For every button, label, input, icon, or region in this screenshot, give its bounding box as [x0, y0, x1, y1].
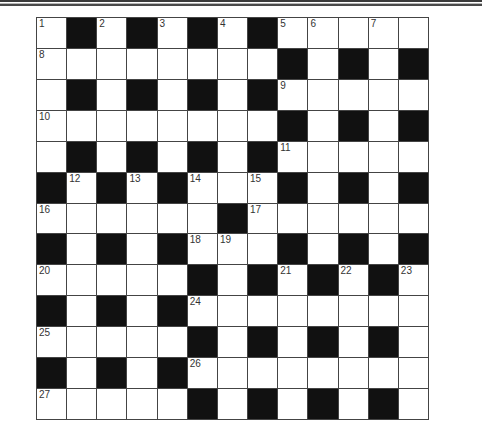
- answer-square[interactable]: [369, 80, 398, 110]
- answer-square[interactable]: [308, 80, 337, 110]
- answer-square[interactable]: [67, 358, 96, 388]
- answer-square[interactable]: 19: [218, 234, 247, 264]
- answer-square[interactable]: [278, 358, 307, 388]
- answer-square[interactable]: [127, 234, 156, 264]
- answer-square[interactable]: [97, 80, 126, 110]
- answer-square[interactable]: [67, 111, 96, 141]
- answer-square[interactable]: [158, 80, 187, 110]
- answer-square[interactable]: [67, 204, 96, 234]
- answer-square[interactable]: [369, 204, 398, 234]
- answer-square[interactable]: [127, 49, 156, 79]
- answer-square[interactable]: [158, 204, 187, 234]
- answer-square[interactable]: [248, 111, 277, 141]
- answer-square[interactable]: [37, 80, 66, 110]
- answer-square[interactable]: [369, 358, 398, 388]
- answer-square[interactable]: 1: [37, 18, 66, 48]
- answer-square[interactable]: [127, 111, 156, 141]
- answer-square[interactable]: [158, 111, 187, 141]
- answer-square[interactable]: 10: [37, 111, 66, 141]
- answer-square[interactable]: [127, 265, 156, 295]
- answer-square[interactable]: 21: [278, 265, 307, 295]
- answer-square[interactable]: [67, 389, 96, 419]
- answer-square[interactable]: [339, 327, 368, 357]
- answer-square[interactable]: [127, 389, 156, 419]
- answer-square[interactable]: [158, 389, 187, 419]
- answer-square[interactable]: [339, 358, 368, 388]
- answer-square[interactable]: [399, 327, 428, 357]
- answer-square[interactable]: [188, 111, 217, 141]
- answer-square[interactable]: 9: [278, 80, 307, 110]
- answer-square[interactable]: [369, 142, 398, 172]
- answer-square[interactable]: 14: [188, 173, 217, 203]
- answer-square[interactable]: [158, 49, 187, 79]
- answer-square[interactable]: 18: [188, 234, 217, 264]
- answer-square[interactable]: [37, 142, 66, 172]
- answer-square[interactable]: [218, 358, 247, 388]
- answer-square[interactable]: 17: [248, 204, 277, 234]
- answer-square[interactable]: [399, 389, 428, 419]
- answer-square[interactable]: [97, 111, 126, 141]
- answer-square[interactable]: [339, 389, 368, 419]
- answer-square[interactable]: [278, 296, 307, 326]
- answer-square[interactable]: 25: [37, 327, 66, 357]
- answer-square[interactable]: [218, 265, 247, 295]
- answer-square[interactable]: [248, 296, 277, 326]
- answer-square[interactable]: [308, 111, 337, 141]
- answer-square[interactable]: [67, 265, 96, 295]
- answer-square[interactable]: [308, 234, 337, 264]
- answer-square[interactable]: [158, 142, 187, 172]
- answer-square[interactable]: [339, 80, 368, 110]
- answer-square[interactable]: 6: [308, 18, 337, 48]
- answer-square[interactable]: [158, 265, 187, 295]
- answer-square[interactable]: [97, 204, 126, 234]
- answer-square[interactable]: [248, 358, 277, 388]
- answer-square[interactable]: 23: [399, 265, 428, 295]
- answer-square[interactable]: [369, 111, 398, 141]
- answer-square[interactable]: [339, 142, 368, 172]
- answer-square[interactable]: 4: [218, 18, 247, 48]
- answer-square[interactable]: [67, 234, 96, 264]
- answer-square[interactable]: [218, 49, 247, 79]
- answer-square[interactable]: [127, 327, 156, 357]
- answer-square[interactable]: [308, 173, 337, 203]
- answer-square[interactable]: [399, 18, 428, 48]
- answer-square[interactable]: [67, 296, 96, 326]
- answer-square[interactable]: 7: [369, 18, 398, 48]
- answer-square[interactable]: [308, 49, 337, 79]
- answer-square[interactable]: [308, 296, 337, 326]
- answer-square[interactable]: [218, 80, 247, 110]
- answer-square[interactable]: [67, 327, 96, 357]
- answer-square[interactable]: 24: [188, 296, 217, 326]
- answer-square[interactable]: [248, 49, 277, 79]
- answer-square[interactable]: [97, 49, 126, 79]
- answer-square[interactable]: [278, 204, 307, 234]
- answer-square[interactable]: 11: [278, 142, 307, 172]
- answer-square[interactable]: [369, 49, 398, 79]
- answer-square[interactable]: [127, 358, 156, 388]
- answer-square[interactable]: 27: [37, 389, 66, 419]
- answer-square[interactable]: [97, 142, 126, 172]
- answer-square[interactable]: [339, 296, 368, 326]
- answer-square[interactable]: [218, 389, 247, 419]
- answer-square[interactable]: 12: [67, 173, 96, 203]
- answer-square[interactable]: 2: [97, 18, 126, 48]
- answer-square[interactable]: [218, 296, 247, 326]
- answer-square[interactable]: 3: [158, 18, 187, 48]
- answer-square[interactable]: [218, 327, 247, 357]
- answer-square[interactable]: [97, 327, 126, 357]
- answer-square[interactable]: [399, 296, 428, 326]
- answer-square[interactable]: [278, 327, 307, 357]
- answer-square[interactable]: [278, 389, 307, 419]
- answer-square[interactable]: [158, 327, 187, 357]
- answer-square[interactable]: [67, 49, 96, 79]
- answer-square[interactable]: 5: [278, 18, 307, 48]
- answer-square[interactable]: [369, 234, 398, 264]
- answer-square[interactable]: [308, 358, 337, 388]
- answer-square[interactable]: [369, 173, 398, 203]
- answer-square[interactable]: [188, 49, 217, 79]
- answer-square[interactable]: [399, 142, 428, 172]
- answer-square[interactable]: [399, 80, 428, 110]
- answer-square[interactable]: [308, 142, 337, 172]
- answer-square[interactable]: [188, 204, 217, 234]
- answer-square[interactable]: 20: [37, 265, 66, 295]
